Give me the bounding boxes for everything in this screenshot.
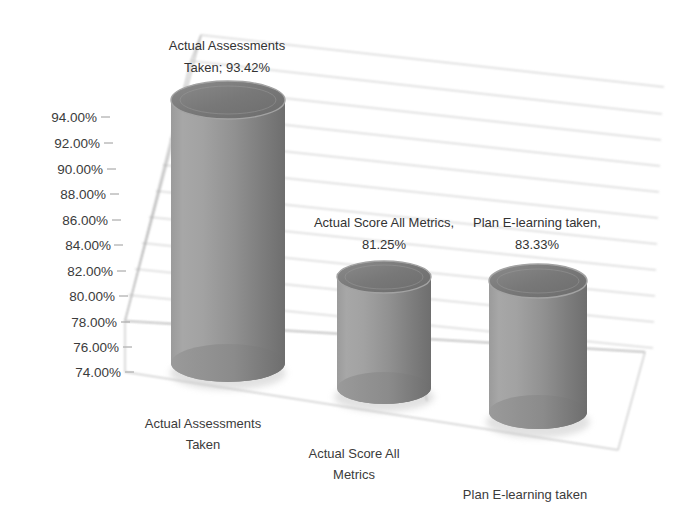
- y-tick-label: 90.00%: [57, 162, 103, 177]
- data-label-line: Plan E-learning taken,: [473, 215, 601, 230]
- y-tick-label: 78.00%: [71, 315, 117, 330]
- bar-actual-assessments-taken[interactable]: [170, 81, 286, 390]
- data-label-line: 83.33%: [515, 237, 560, 252]
- bar-top-ellipse: [171, 81, 285, 119]
- cylinder-3d-chart: 94.00% 92.00% 90.00% 88.00% 86.00% 84.00…: [0, 0, 691, 530]
- y-tick-label: 94.00%: [51, 110, 97, 125]
- bar-actual-score-all-metrics[interactable]: [334, 261, 434, 412]
- bar-plan-elearning-taken[interactable]: [486, 264, 590, 438]
- y-tick-label: 82.00%: [67, 264, 113, 279]
- y-tick-label: 86.00%: [62, 213, 108, 228]
- bar-bottom-ellipse: [171, 344, 285, 382]
- y-tick-label: 88.00%: [60, 187, 106, 202]
- bar-body: [171, 100, 285, 382]
- y-tick-label: 76.00%: [73, 340, 119, 355]
- category-label-line: Plan E-learning taken: [463, 487, 587, 502]
- category-label-line: Actual Assessments: [145, 416, 262, 431]
- category-label-line: Actual Score All: [308, 446, 399, 461]
- data-label-line: Taken; 93.42%: [184, 60, 270, 75]
- bar-bottom-ellipse: [489, 395, 587, 429]
- bar-bottom-ellipse: [337, 372, 431, 404]
- category-label-line: Taken: [186, 437, 221, 452]
- y-tick-label: 92.00%: [54, 136, 100, 151]
- data-label-line: Actual Score All Metrics,: [314, 215, 454, 230]
- y-tick-label: 74.00%: [75, 365, 121, 380]
- y-tick-label: 80.00%: [69, 289, 115, 304]
- data-label-line: 81.25%: [362, 237, 407, 252]
- bar-top-ellipse: [337, 261, 431, 293]
- y-tick-label: 84.00%: [65, 238, 111, 253]
- category-label-3: Plan E-learning taken: [463, 487, 587, 502]
- data-label-line: Actual Assessments: [169, 38, 286, 53]
- category-label-line: Metrics: [333, 467, 375, 482]
- chart-container: 94.00% 92.00% 90.00% 88.00% 86.00% 84.00…: [0, 0, 691, 530]
